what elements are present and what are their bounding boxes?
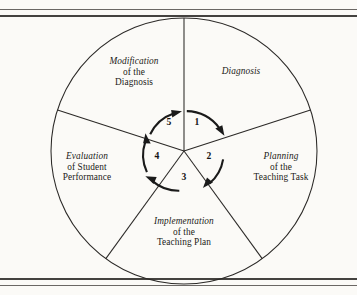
sector-4-line-3: Performance [38, 172, 136, 183]
sector-4-line-2: of Student [38, 162, 136, 173]
sector-4-line-1: Evaluation [38, 151, 136, 162]
sector-2-line-3: Teaching Task [232, 172, 330, 183]
arc-arrow-2 [209, 159, 223, 183]
sector-2-line-2: of the [232, 162, 330, 173]
sector-1-line-1: Diagnosis [196, 66, 286, 77]
bottom-border-rules [0, 279, 357, 286]
sector-label-implementation: Implementation of the Teaching Plan [120, 216, 248, 248]
sector-5-line-3: Diagnosis [84, 77, 184, 88]
sector-label-modification: Modification of the Diagnosis [84, 56, 184, 88]
sector-5-line-1: Modification [84, 56, 184, 67]
sector-label-diagnosis: Diagnosis [196, 66, 286, 77]
sector-5-line-2: of the [84, 67, 184, 78]
stage-number-5: 5 [162, 116, 176, 127]
sector-label-evaluation: Evaluation of Student Performance [38, 151, 136, 183]
arrow-head-1 [215, 125, 224, 136]
stage-number-4: 4 [150, 150, 164, 161]
sector-label-planning: Planning of the Teaching Task [232, 151, 330, 183]
wheel-diagram [0, 0, 357, 295]
arc-arrow-4 [143, 142, 147, 172]
top-border-rules [0, 10, 357, 17]
sector-3-line-1: Implementation [120, 216, 248, 227]
sector-3-line-2: of the [120, 227, 248, 238]
stage-number-1: 1 [190, 116, 204, 127]
stage-number-2: 2 [202, 150, 216, 161]
figure-page: Diagnosis Planning of the Teaching Task … [0, 0, 357, 295]
stage-number-3: 3 [177, 171, 191, 182]
sector-2-line-1: Planning [232, 151, 330, 162]
sector-3-line-3: Teaching Plan [120, 237, 248, 248]
